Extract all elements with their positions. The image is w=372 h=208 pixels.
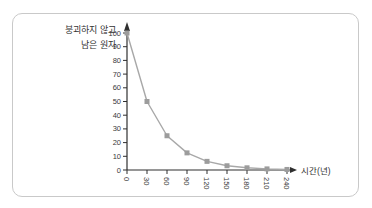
x-tick-label: 90 (182, 177, 191, 185)
data-point-marker (205, 159, 210, 164)
y-tick-label: 70 (113, 70, 121, 79)
data-point-marker (265, 166, 270, 171)
x-tick-label: 240 (282, 177, 291, 190)
y-tick-label: 10 (113, 152, 121, 161)
y-tick-label: 60 (113, 83, 121, 92)
data-point-marker (225, 163, 230, 168)
y-tick-label: 0 (117, 166, 121, 175)
data-point-marker (165, 133, 170, 138)
x-tick-label: 180 (242, 177, 251, 190)
decay-chart-svg: 0102030405060708090100030609012015018021… (0, 0, 372, 208)
x-tick-label: 60 (162, 177, 171, 185)
x-tick-label: 0 (122, 177, 131, 181)
data-point-marker (145, 99, 150, 104)
y-tick-label: 50 (113, 97, 121, 106)
x-axis-arrowhead (290, 167, 297, 173)
y-axis-arrowhead (124, 22, 130, 31)
y-tick-label: 80 (113, 56, 121, 65)
data-point-marker (125, 31, 130, 36)
data-point-marker (185, 150, 190, 155)
x-axis-label: 시간(년) (301, 164, 331, 176)
decay-series-line (127, 33, 287, 169)
x-tick-label: 120 (202, 177, 211, 190)
y-tick-label: 90 (113, 42, 121, 51)
screenshot-root: 붕괴하지 않고 남은 원자 01020304050607080901000306… (0, 0, 372, 208)
y-tick-label: 20 (113, 138, 121, 147)
data-point-marker (285, 167, 290, 172)
y-tick-label: 30 (113, 124, 121, 133)
x-tick-label: 150 (222, 177, 231, 190)
x-tick-label: 210 (262, 177, 271, 190)
x-tick-label: 30 (142, 177, 151, 185)
data-point-marker (245, 165, 250, 170)
y-tick-label: 40 (113, 111, 121, 120)
y-tick-label: 100 (108, 29, 121, 38)
